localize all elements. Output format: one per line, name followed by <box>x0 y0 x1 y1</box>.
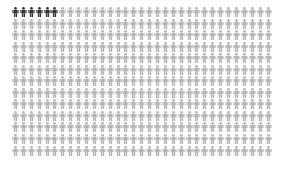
person-icon <box>20 30 27 40</box>
person-icon <box>12 76 19 86</box>
person-icon <box>107 111 114 121</box>
person-icon <box>193 134 200 144</box>
person-icon <box>162 122 169 132</box>
person-icon <box>51 53 58 63</box>
person-icon <box>170 19 177 29</box>
person-icon <box>209 111 216 121</box>
person-icon <box>83 146 90 156</box>
person-icon <box>217 146 224 156</box>
person-icon <box>154 65 161 75</box>
person-icon <box>83 111 90 121</box>
person-icon <box>91 134 98 144</box>
person-icon <box>233 65 240 75</box>
person-icon <box>225 76 232 86</box>
person-icon <box>20 122 27 132</box>
person-icon <box>201 76 208 86</box>
person-icon <box>83 53 90 63</box>
person-icon <box>138 30 145 40</box>
person-icon <box>257 42 264 52</box>
person-icon <box>20 76 27 86</box>
person-icon <box>91 76 98 86</box>
person-icon <box>138 76 145 86</box>
person-icon <box>44 30 51 40</box>
person-icon <box>75 65 82 75</box>
person-icon <box>12 42 19 52</box>
person-icon <box>265 134 272 144</box>
person-icon <box>249 42 256 52</box>
person-icon <box>249 53 256 63</box>
person-icon <box>178 7 185 17</box>
person-icon <box>178 42 185 52</box>
person-icon <box>122 122 129 132</box>
person-icon <box>225 19 232 29</box>
person-icon-highlighted <box>44 7 51 17</box>
person-icon <box>225 88 232 98</box>
person-icon <box>91 65 98 75</box>
person-icon <box>217 53 224 63</box>
person-icon <box>20 99 27 109</box>
person-icon <box>67 7 74 17</box>
person-icon <box>138 146 145 156</box>
person-icon <box>83 65 90 75</box>
person-icon <box>257 19 264 29</box>
person-icon <box>36 88 43 98</box>
person-icon <box>201 19 208 29</box>
person-icon <box>193 53 200 63</box>
person-icon <box>162 7 169 17</box>
person-icon <box>138 134 145 144</box>
person-icon <box>162 134 169 144</box>
person-icon <box>186 42 193 52</box>
person-icon <box>67 88 74 98</box>
person-icon <box>209 146 216 156</box>
person-icon <box>122 7 129 17</box>
person-icon <box>28 65 35 75</box>
person-icon <box>107 88 114 98</box>
person-icon <box>146 134 153 144</box>
person-icon <box>122 134 129 144</box>
person-icon <box>122 53 129 63</box>
person-icon <box>265 146 272 156</box>
person-icon <box>265 53 272 63</box>
person-icon <box>138 88 145 98</box>
person-icon <box>154 134 161 144</box>
person-icon <box>265 7 272 17</box>
person-icon <box>265 111 272 121</box>
person-icon <box>99 111 106 121</box>
person-icon <box>115 99 122 109</box>
person-icon <box>186 76 193 86</box>
person-icon <box>257 122 264 132</box>
person-icon <box>146 99 153 109</box>
person-icon <box>115 53 122 63</box>
person-icon <box>83 76 90 86</box>
person-icon <box>130 7 137 17</box>
person-icon <box>257 146 264 156</box>
person-icon <box>130 30 137 40</box>
person-icon <box>257 88 264 98</box>
person-icon <box>36 19 43 29</box>
person-icon <box>44 88 51 98</box>
person-icon <box>241 76 248 86</box>
person-icon-highlighted <box>36 7 43 17</box>
person-icon <box>20 19 27 29</box>
person-icon <box>170 111 177 121</box>
person-icon <box>138 19 145 29</box>
person-icon <box>130 19 137 29</box>
person-icon <box>257 99 264 109</box>
person-icon <box>178 30 185 40</box>
person-icon <box>162 53 169 63</box>
person-icon <box>217 30 224 40</box>
person-icon <box>83 88 90 98</box>
person-icon <box>233 122 240 132</box>
person-icon <box>130 88 137 98</box>
person-icon <box>209 76 216 86</box>
person-icon <box>186 19 193 29</box>
person-icon <box>59 111 66 121</box>
person-icon <box>51 99 58 109</box>
person-icon <box>12 146 19 156</box>
person-icon <box>28 19 35 29</box>
person-icon <box>249 122 256 132</box>
person-icon <box>193 122 200 132</box>
person-icon <box>241 99 248 109</box>
person-icon <box>99 99 106 109</box>
person-icon <box>83 134 90 144</box>
